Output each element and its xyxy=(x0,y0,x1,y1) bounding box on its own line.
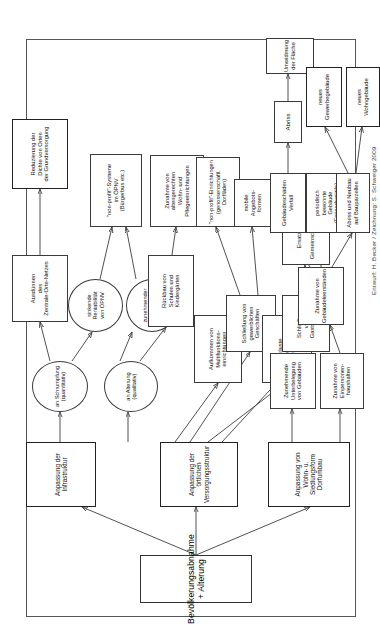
node-einpersonenhaushalte: Zunahme von Einpersonen- haushalten xyxy=(320,353,364,409)
credit-line: Entwurf: H. Becker / Zeichnung: S. Schwe… xyxy=(370,147,377,295)
node-abriss-neubau-bauparzellen: Abriss und Neubau auf Bauparzellen xyxy=(336,173,370,233)
node-root: Bevölkerungsabnahme + Alterung xyxy=(140,555,252,603)
node-wohnform: Anpassung von Wohn- u. Siedlungsform Dor… xyxy=(268,442,350,507)
diagram-page: Bevölkerungsabnahme + Alterung Anpassung… xyxy=(0,0,380,625)
node-unterbelegung: Zunehmende Unterbelegung von Gebäuden xyxy=(270,353,316,409)
node-nonprofit-oepnv: "non-profit"-Systeme im ÖPNV (Bürgerbus … xyxy=(90,154,142,227)
node-neues-wohngebaeude: neues Wohngebäude xyxy=(346,67,380,127)
node-versorgungsstruktur: Anpassung der örtlichen Versorgungsstruk… xyxy=(160,442,238,507)
node-rentabilitaet-oepnv: sinkende Rentabilität von ÖPNV xyxy=(68,279,123,332)
diagram-canvas: Bevölkerungsabnahme + Alterung Anpassung… xyxy=(0,0,380,625)
node-infrastructure: Anpassung der Infrastruktur xyxy=(26,442,96,507)
node-mobile-angebotsformen: mobile Angebots- formen xyxy=(234,179,272,227)
node-reduzierung-grundversorgung: Reduzierung der Dichte von Orten der Gru… xyxy=(12,119,68,189)
node-neues-gewerbegebaeude: neues Gewerbegebäude xyxy=(306,67,342,127)
node-gebaeudeleerstaende: Zunahme von Gebäudeleerständen xyxy=(298,267,344,325)
node-abriss: Abriss xyxy=(274,101,302,143)
node-schrumpfung: an Schrumpfung (quantitativ) xyxy=(32,361,88,412)
node-ausduennen-zentrale-orte: Ausdünnen des Zentrale-Orte-Netzes xyxy=(12,255,68,322)
node-gebaeudeschaeden-verfall: Gebäudeschäden Verfall xyxy=(270,173,306,233)
node-rueckbau-schulen: Rückbau von Schulen und Kindergärten xyxy=(148,255,194,327)
node-alterung: an Alterung (qualitativ) xyxy=(104,361,158,412)
